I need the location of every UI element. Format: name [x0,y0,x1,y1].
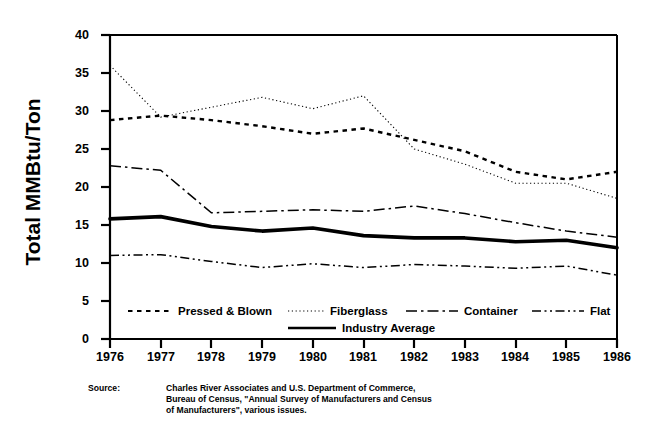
x-axis-ticks [110,339,617,348]
series-line-pressed-blown [110,116,617,180]
chart-svg [0,0,667,434]
series-line-industry-average [110,217,617,248]
legend-swatches [128,311,584,328]
chart-figure: Total MMBtu/Ton 40 35 30 25 20 15 10 5 0… [0,0,667,434]
series-line-fiberglass [110,65,617,198]
series-lines [110,65,617,275]
y-axis-ticks [101,35,110,339]
series-line-container [110,166,617,237]
plot-frame [110,35,617,339]
series-line-flat [110,255,617,276]
